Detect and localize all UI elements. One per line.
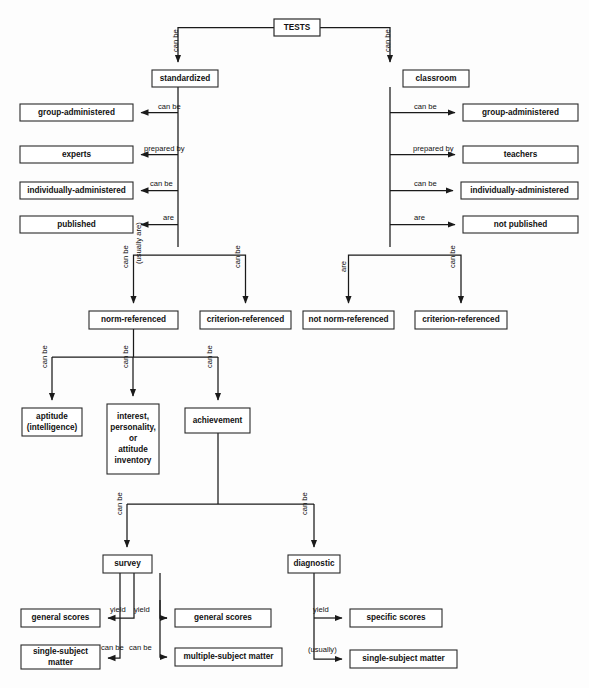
node-d-specific[interactable]: specific scores <box>350 609 442 627</box>
node-l-group-admin[interactable]: group-administered <box>20 104 133 121</box>
node-label-inventory: attitude <box>118 445 148 454</box>
node-s-general-left[interactable]: general scores <box>21 609 100 627</box>
edge-tests-standardized <box>178 28 274 63</box>
edge-label-e17: can be <box>121 345 130 368</box>
edge-label-e14: are <box>339 261 348 272</box>
edge-label-e6: are <box>163 213 174 222</box>
node-label-survey: survey <box>114 559 141 568</box>
edge-label-e20: can be <box>300 492 309 515</box>
node-l-published[interactable]: published <box>20 216 133 233</box>
edge-label-e11: can be <box>121 245 130 268</box>
node-r-group-admin[interactable]: group-administered <box>463 104 578 121</box>
node-label-l-experts: experts <box>62 150 92 159</box>
edge-label-e22: can be <box>101 643 124 652</box>
diagram-canvas: TESTSstandardizedclassroomgroup-administ… <box>0 0 589 688</box>
node-classroom[interactable]: classroom <box>403 70 469 87</box>
node-r-indiv-admin[interactable]: individually-administered <box>461 182 578 199</box>
node-s-multiple[interactable]: multiple-subject matter <box>175 648 282 666</box>
node-achievement[interactable]: achievement <box>185 408 250 433</box>
node-diagnostic[interactable]: diagnostic <box>288 555 340 573</box>
edge-label-e12: (usually are) <box>134 222 143 264</box>
node-r-not-published[interactable]: not published <box>463 216 578 233</box>
node-not-norm-ref[interactable]: not norm-referenced <box>303 311 394 329</box>
node-label-inventory: interest, <box>117 412 149 421</box>
node-label-r-teachers: teachers <box>504 150 538 159</box>
edge-cls-notnorm <box>349 255 391 303</box>
node-label-r-indiv-admin: individually-administered <box>470 186 569 195</box>
node-label-classroom: classroom <box>416 74 457 83</box>
node-label-r-group-admin: group-administered <box>482 108 559 117</box>
edge-label-e10: are <box>414 213 425 222</box>
node-label-d-specific: specific scores <box>366 613 426 622</box>
node-label-s-single-left: matter <box>48 658 74 667</box>
node-label-achievement: achievement <box>193 416 243 425</box>
node-label-l-published: published <box>57 220 96 229</box>
node-label-not-norm-ref: not norm-referenced <box>308 315 388 324</box>
node-norm-ref[interactable]: norm-referenced <box>89 311 178 329</box>
node-label-s-multiple: multiple-subject matter <box>183 652 274 661</box>
node-label-d-single: single-subject matter <box>362 654 445 663</box>
node-s-single-left[interactable]: single-subjectmatter <box>21 645 100 669</box>
node-s-general-right[interactable]: general scores <box>175 609 271 627</box>
node-layer: TESTSstandardizedclassroomgroup-administ… <box>20 19 578 669</box>
node-label-aptitude: aptitude <box>36 412 68 421</box>
edge-label-e21: yield <box>110 605 126 614</box>
node-label-diagnostic: diagnostic <box>294 559 335 568</box>
node-label-norm-ref: norm-referenced <box>101 315 166 324</box>
edge-label-e1: can be <box>171 29 180 52</box>
edge-label-e25: yield <box>313 605 329 614</box>
node-label-crit-ref-std: criterion-referenced <box>207 315 284 324</box>
node-label-crit-ref-class: criterion-referenced <box>422 315 499 324</box>
node-aptitude[interactable]: aptitude(intelligence) <box>22 408 82 436</box>
edge-label-e2: can be <box>383 29 392 52</box>
node-r-teachers[interactable]: teachers <box>463 146 578 163</box>
edge-label-e16: can be <box>40 345 49 368</box>
edge-label-e23: yield <box>134 605 150 614</box>
node-d-single[interactable]: single-subject matter <box>350 650 457 668</box>
node-label-s-single-left: single-subject <box>33 647 88 656</box>
edge-label-e4: prepared by <box>144 144 185 153</box>
node-label-inventory: inventory <box>115 456 152 465</box>
node-label-s-general-right: general scores <box>194 613 252 622</box>
node-label-tests: TESTS <box>284 23 311 32</box>
edge-label-e24: can be <box>129 643 152 652</box>
edge-label-e15: can be <box>448 245 457 268</box>
edge-label-e7: can be <box>414 102 437 111</box>
edge-label-e26: (usually) <box>308 645 337 654</box>
node-label-l-indiv-admin: individually-administered <box>27 186 126 195</box>
edge-label-e3: can be <box>158 102 181 111</box>
flowchart-svg: TESTSstandardizedclassroomgroup-administ… <box>0 0 589 688</box>
edge-label-e8: prepared by <box>413 144 454 153</box>
node-label-s-general-left: general scores <box>32 613 90 622</box>
node-standardized[interactable]: standardized <box>152 70 218 87</box>
node-label-r-not-published: not published <box>494 220 548 229</box>
node-inventory[interactable]: interest,personality,orattitudeinventory <box>107 404 159 474</box>
node-crit-ref-std[interactable]: criterion-referenced <box>200 311 291 329</box>
node-label-l-group-admin: group-administered <box>38 108 115 117</box>
node-l-experts[interactable]: experts <box>20 146 133 163</box>
node-crit-ref-class[interactable]: criterion-referenced <box>415 311 507 329</box>
node-label-inventory: or <box>129 434 138 443</box>
node-label-standardized: standardized <box>160 74 211 83</box>
node-l-indiv-admin[interactable]: individually-administered <box>20 182 133 199</box>
edge-label-e18: can be <box>205 345 214 368</box>
node-survey[interactable]: survey <box>103 555 152 573</box>
node-label-inventory: personality, <box>110 423 155 432</box>
edge-label-e5: can be <box>150 179 173 188</box>
edge-label-e13: can be <box>233 245 242 268</box>
edge-survey-right-stem <box>160 600 167 618</box>
edge-tests-classroom <box>320 28 390 63</box>
node-label-aptitude: (intelligence) <box>27 423 78 432</box>
edge-label-e9: can be <box>414 179 437 188</box>
edge-survey-multiple <box>160 573 167 657</box>
node-tests[interactable]: TESTS <box>274 19 320 36</box>
edge-label-e19: can be <box>115 492 124 515</box>
